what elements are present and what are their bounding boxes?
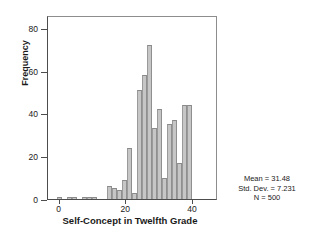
x-tick-label: 40 — [177, 204, 207, 214]
x-tick-label: 0 — [44, 204, 74, 214]
histogram-bar — [127, 148, 132, 199]
plot-frame — [47, 16, 217, 200]
y-tick-label: 80 — [0, 24, 38, 34]
annotation-n: N = 500 — [224, 193, 310, 203]
histogram-bar — [92, 197, 97, 199]
histogram-bar — [187, 105, 192, 199]
y-axis-title: Frequency — [20, 3, 30, 123]
y-tick-label: 40 — [0, 109, 38, 119]
y-tick-label: 60 — [0, 67, 38, 77]
statistics-annotation: Mean = 31.48 Std. Dev. = 7.231 N = 500 — [224, 174, 310, 203]
y-tick-mark — [41, 200, 47, 201]
y-tick-label: 20 — [0, 152, 38, 162]
histogram-figure: Frequency 020406080 02040 Self-Concept i… — [0, 0, 312, 237]
plot-area — [48, 17, 216, 199]
x-axis-title: Self-Concept in Twelfth Grade — [20, 215, 240, 226]
histogram-bar — [57, 197, 62, 199]
histogram-bar — [72, 197, 77, 199]
annotation-mean: Mean = 31.48 — [224, 174, 310, 184]
x-tick-label: 20 — [110, 204, 140, 214]
y-tick-label: 0 — [0, 195, 38, 205]
annotation-std-dev: Std. Dev. = 7.231 — [224, 184, 310, 194]
